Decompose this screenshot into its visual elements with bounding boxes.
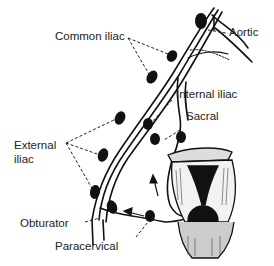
leader-external-1: [66, 118, 118, 143]
label-common-iliac: Common iliac: [55, 30, 125, 43]
label-external-iliac-line1: External: [14, 139, 56, 152]
node-aortic: [195, 13, 207, 29]
label-external-iliac-line2: iliac: [14, 153, 34, 166]
node-common-iliac-1: [165, 48, 180, 63]
flow-arrows: [124, 175, 158, 216]
node-external-iliac-2: [96, 147, 110, 164]
uterus-cervix: [168, 148, 235, 258]
label-sacral: Sacral: [186, 110, 219, 123]
label-aortic: Aortic: [229, 26, 258, 39]
label-paracervical: Paracervical: [55, 240, 118, 253]
leader-common-iliac-1: [128, 38, 168, 54]
node-paracervical: [145, 210, 155, 222]
leader-external-3: [66, 143, 93, 190]
node-external-iliac-1: [113, 110, 128, 127]
node-internal-2: [176, 131, 186, 143]
leader-common-iliac-2: [128, 38, 150, 76]
node-internal-iliac: [143, 118, 153, 130]
leader-external-2: [66, 143, 100, 155]
leader-paracervical: [136, 222, 148, 237]
node-common-iliac-2: [144, 68, 160, 85]
label-internal-iliac: Internal iliac: [176, 88, 237, 101]
node-sacral: [150, 133, 160, 145]
label-obturator: Obturator: [20, 217, 69, 230]
